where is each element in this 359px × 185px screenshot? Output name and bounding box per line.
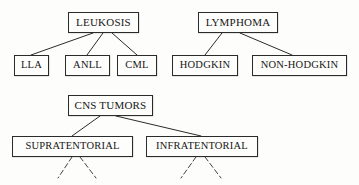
dangling-edge-infratentorial-2 [181,157,196,178]
node-lla-label: LLA [21,60,42,71]
node-cml-label: CML [125,60,148,71]
node-leukosis-label: LEUKOSIS [76,17,131,28]
diagram-canvas: LEUKOSIS LYMPHOMA LLA ANLL CML HODGKIN N… [0,0,359,185]
dangling-edge-infratentorial-3 [205,157,221,178]
edge-cns-tumors-to-supratentorial [72,116,100,136]
connector-layer [0,0,359,185]
dangling-edge-supratentorial-0 [58,157,72,178]
node-anll[interactable]: ANLL [65,55,110,76]
node-lymphoma[interactable]: LYMPHOMA [198,12,278,33]
node-non-hodgkin-label: NON-HODGKIN [261,60,338,71]
node-cns-tumors-label: CNS TUMORS [75,100,147,111]
node-hodgkin[interactable]: HODGKIN [172,55,238,76]
node-lymphoma-label: LYMPHOMA [206,17,271,28]
node-supratentorial[interactable]: SUPRATENTORIAL [12,136,133,157]
node-hodgkin-label: HODGKIN [180,60,230,71]
edge-leukosis-to-anll [87,33,103,55]
node-infratentorial-label: INFRATENTORIAL [156,141,248,152]
dangling-edge-supratentorial-1 [80,157,96,178]
node-lla[interactable]: LLA [14,55,49,76]
node-cns-tumors[interactable]: CNS TUMORS [68,95,153,116]
node-anll-label: ANLL [73,60,102,71]
edge-leukosis-to-cml [112,33,137,55]
node-supratentorial-label: SUPRATENTORIAL [25,141,119,152]
node-non-hodgkin[interactable]: NON-HODGKIN [252,55,347,76]
edge-cns-tumors-to-infratentorial [116,116,201,136]
node-infratentorial[interactable]: INFRATENTORIAL [146,136,258,157]
edge-leukosis-to-lla [31,33,93,55]
node-leukosis[interactable]: LEUKOSIS [68,12,139,33]
edge-lymphoma-to-non-hodgkin [240,33,292,55]
edge-lymphoma-to-hodgkin [205,33,222,55]
node-cml[interactable]: CML [117,55,157,76]
